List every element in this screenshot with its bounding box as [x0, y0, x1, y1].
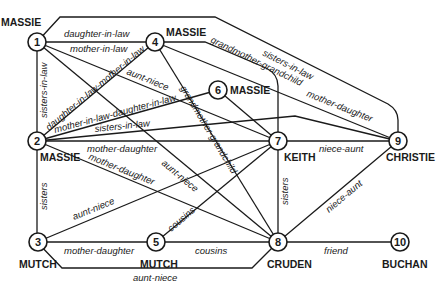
label-1-4-daughter-in-law: daughter-in-law [64, 28, 130, 39]
node-3-name: MUTCH [19, 258, 57, 270]
node-9: 9 CHRISTIE [386, 132, 435, 163]
label-8-10-friend: friend [324, 245, 348, 256]
kinship-network-diagram: daughter-in-law mother-in-law sisters-in… [0, 0, 438, 291]
label-7-8-sisters: sisters [279, 177, 290, 205]
node-7-name: KEITH [284, 151, 316, 163]
node-8-name: CRUDEN [267, 258, 312, 270]
node-8-number: 8 [275, 236, 281, 248]
node-3-number: 3 [35, 236, 41, 248]
label-5-8-cousins: cousins [195, 245, 227, 256]
node-6-name: MASSIE [230, 84, 270, 96]
label-1-2-sisters-in-law: sisters-in-law [38, 61, 49, 118]
node-3: 3 MUTCH [19, 233, 57, 270]
node-1-number: 1 [34, 36, 40, 48]
node-7: 7 KEITH [269, 132, 316, 163]
node-10-number: 10 [394, 236, 406, 248]
node-4-name: MASSIE [166, 26, 206, 38]
node-9-number: 9 [395, 135, 401, 147]
node-2-name: MASSIE [40, 151, 80, 163]
node-7-number: 7 [275, 135, 281, 147]
label-4-8-grandmother-grandchild: grandmother-grandchild [178, 83, 240, 176]
label-2-8-mother-daughter: mother-daughter [87, 151, 157, 188]
node-5-name: MUTCH [140, 258, 178, 270]
node-10: 10 BUCHAN [382, 233, 428, 270]
node-6-number: 6 [215, 84, 221, 96]
label-2-3-sisters: sisters [38, 182, 49, 210]
edge-labels: daughter-in-law mother-in-law sisters-in… [38, 28, 375, 283]
label-8-9-niece-aunt: niece-aunt [323, 177, 364, 214]
node-1: 1 MASSIE [1, 16, 46, 51]
node-8: 8 CRUDEN [267, 233, 312, 270]
node-10-name: BUCHAN [382, 258, 428, 270]
label-1-7-aunt-niece: aunt-niece [125, 66, 170, 93]
node-5-number: 5 [153, 236, 159, 248]
label-4-9-mother-daughter: mother-daughter [305, 88, 375, 125]
edge-6-7 [218, 90, 278, 141]
node-5: 5 MUTCH [140, 233, 178, 270]
label-5-7-cousins: cousins [165, 204, 197, 233]
label-3-8-aunt-niece: aunt-niece [133, 272, 177, 283]
label-3-5-mother-daughter: mother-daughter [64, 245, 135, 256]
label-7-9-niece-aunt: niece-aunt [319, 143, 364, 154]
node-4: 4 MASSIE [146, 26, 206, 51]
node-2-number: 2 [34, 135, 40, 147]
label-1-4-mother-in-law: mother-in-law [70, 43, 129, 54]
node-6: 6 MASSIE [209, 81, 270, 99]
node-9-name: CHRISTIE [386, 151, 435, 163]
node-4-number: 4 [152, 36, 159, 48]
node-1-name: MASSIE [1, 16, 41, 28]
